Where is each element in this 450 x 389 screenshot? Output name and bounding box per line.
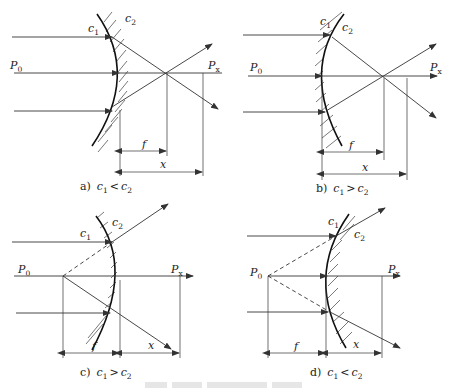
f-label: f: [293, 340, 300, 353]
x-label: x: [353, 338, 360, 351]
panel-caption-d: d)c1<c2: [310, 366, 363, 381]
p0-label: P0: [249, 266, 262, 281]
f-label: f: [141, 138, 148, 151]
c1-label: c1: [328, 215, 339, 230]
px-label: Px: [429, 61, 442, 76]
c1-label: c1: [320, 15, 331, 30]
panel-caption-a: a)c1<c2: [80, 180, 132, 195]
c1-label: c1: [80, 227, 91, 242]
figure-caption-faded: [145, 382, 302, 388]
refracted-ray-bottom: [112, 44, 212, 107]
virtual-ray-top: [63, 242, 112, 276]
f-label: f: [348, 139, 355, 152]
panel-c: c1 c2 P0 Px f x c)c1>c2: [12, 204, 193, 381]
interface-surface: [321, 14, 344, 146]
virtual-ray-bottom: [268, 276, 330, 312]
sound-focusing-diagram: c1 c2 P0 Px f x a)c1<c2: [0, 0, 450, 389]
c1-label: c1: [88, 22, 99, 37]
panel-a: c1 c2 P0 Px f x a)c1<c2: [9, 12, 222, 195]
px-label: Px: [207, 59, 220, 74]
c2-label: c2: [112, 216, 123, 231]
hatching-medium-1: [315, 12, 342, 148]
hatching-medium-2: [328, 216, 355, 344]
refracted-ray-bottom: [63, 276, 171, 349]
p0-label: P0: [17, 263, 30, 278]
c2-label: c2: [125, 12, 136, 27]
px-label: Px: [387, 263, 400, 278]
panel-b: c1 c2 P0 Px f x b)c1>c2: [243, 12, 442, 197]
px-label: Px: [170, 263, 183, 278]
panel-caption-b: b)c1>c2: [316, 182, 369, 197]
interface-surface: [92, 216, 115, 350]
c2-label: c2: [354, 228, 365, 243]
refracted-ray-bottom: [326, 44, 436, 111]
x-label: x: [362, 161, 369, 174]
x-label: x: [148, 339, 155, 352]
p0-label: P0: [9, 59, 22, 74]
hatching-medium-2: [98, 12, 128, 152]
hatching-medium-1: [86, 212, 117, 344]
panel-d: c1 c2 P0 Px f x d)c1<c2: [247, 208, 400, 381]
panel-caption-c: c)c1>c2: [80, 366, 132, 381]
p0-label: P0: [249, 61, 262, 76]
c2-label: c2: [342, 21, 353, 36]
x-label: x: [160, 158, 167, 171]
